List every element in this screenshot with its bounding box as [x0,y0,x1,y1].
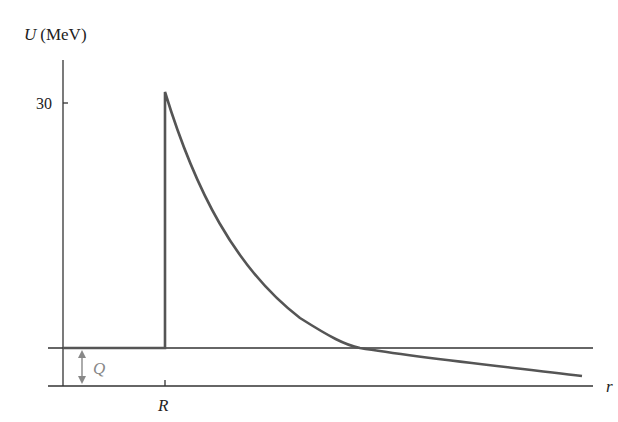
x-tick-label-R: R [157,396,169,415]
y-axis-label: U(MeV) [24,25,87,44]
y-tick-label-30: 30 [36,95,52,112]
q-double-arrow-icon [78,350,86,384]
potential-diagram: U(MeV) 30 R r Q [0,0,618,422]
potential-curve [63,92,582,376]
q-label: Q [93,359,105,378]
x-axis-label-r: r [606,377,613,396]
